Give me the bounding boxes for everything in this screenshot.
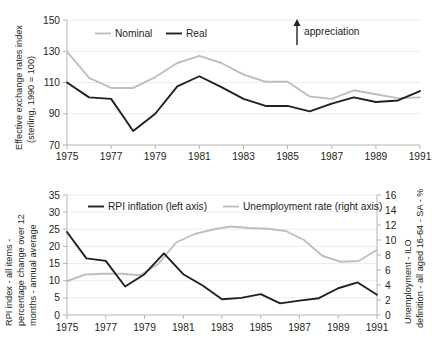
x-tick-1975: 1975 <box>56 322 79 333</box>
y-tick-150: 150 <box>43 15 60 26</box>
exchange-rates-y-axis: 150 130 110 90 70 <box>43 15 67 151</box>
inflation-y-axis-label: RPI index - all items - percentage chang… <box>4 214 38 326</box>
appreciation-annotation: appreciation <box>293 19 359 45</box>
exchange-rates-y-axis-label: Effective exchange rates index (sterling… <box>14 25 36 150</box>
y2-tick-2: 2 <box>385 295 391 306</box>
x-tick-1975: 1975 <box>56 151 79 162</box>
legend-label-unemployment: Unemployment rate (right axis) <box>243 201 382 212</box>
legend-label-real: Real <box>186 28 207 39</box>
y-tick-70: 70 <box>49 140 61 151</box>
y-axis-label-line3: months - annual average <box>28 224 38 326</box>
x-tick-1991: 1991 <box>409 151 432 162</box>
y-tick-10: 10 <box>49 275 61 286</box>
y-tick-30: 30 <box>49 207 61 218</box>
y2-tick-10: 10 <box>385 235 397 246</box>
y-tick-110: 110 <box>44 77 61 88</box>
y-axis-label-line1: RPI index - all items - <box>4 239 14 326</box>
y2-tick-0: 0 <box>385 310 391 321</box>
y-tick-5: 5 <box>54 292 60 303</box>
series-real-line <box>67 76 420 131</box>
inflation-unemployment-legend: RPI inflation (left axis) Unemployment r… <box>88 201 382 212</box>
x-tick-1979: 1979 <box>133 322 156 333</box>
y2-tick-6: 6 <box>385 265 391 276</box>
exchange-rates-chart-panel: Effective exchange rates index (sterling… <box>0 0 432 176</box>
y-tick-35: 35 <box>49 190 61 201</box>
x-tick-1977: 1977 <box>100 151 123 162</box>
y2-axis-label-line2: definition - all aged 16-64 - SA - % <box>415 189 425 328</box>
x-tick-1977: 1977 <box>94 322 117 333</box>
series-unemployment-line <box>67 227 377 282</box>
inflation-x-axis: 1975 1977 1979 1981 1983 1985 1987 1989 … <box>56 315 389 333</box>
y-tick-90: 90 <box>49 108 61 119</box>
y2-tick-14: 14 <box>385 205 397 216</box>
legend-label-rpi: RPI inflation (left axis) <box>108 201 207 212</box>
exchange-rates-x-axis: 1975 1977 1979 1981 1983 1985 1987 1989 … <box>56 145 432 162</box>
y2-axis-label-line1: Unemployment - ILO <box>403 239 413 324</box>
inflation-unemployment-chart: RPI index - all items - percentage chang… <box>0 176 432 352</box>
x-tick-1985: 1985 <box>276 151 299 162</box>
x-tick-1981: 1981 <box>172 322 195 333</box>
charts-page: Effective exchange rates index (sterling… <box>0 0 432 352</box>
y2-tick-4: 4 <box>385 280 391 291</box>
appreciation-label: appreciation <box>304 26 360 37</box>
inflation-y-axis: 35 30 25 20 15 10 5 0 <box>49 190 67 321</box>
y-tick-0: 0 <box>54 310 60 321</box>
y2-tick-8: 8 <box>385 250 391 261</box>
y-axis-label-line1: Effective exchange rates index <box>14 25 24 150</box>
exchange-rates-legend: Nominal Real <box>95 28 207 39</box>
x-tick-1989: 1989 <box>327 322 350 333</box>
x-tick-1991: 1991 <box>366 322 389 333</box>
x-tick-1981: 1981 <box>188 151 211 162</box>
y2-tick-12: 12 <box>385 220 397 231</box>
series-nominal-line <box>67 52 420 99</box>
unemployment-y-axis-label: Unemployment - ILO definition - all aged… <box>403 189 425 328</box>
inflation-unemployment-chart-panel: RPI index - all items - percentage chang… <box>0 176 432 352</box>
x-tick-1983: 1983 <box>232 151 255 162</box>
x-tick-1987: 1987 <box>288 322 311 333</box>
y-tick-20: 20 <box>49 241 61 252</box>
y-tick-130: 130 <box>43 46 60 57</box>
exchange-rates-chart: Effective exchange rates index (sterling… <box>0 0 432 176</box>
legend-label-nominal: Nominal <box>115 28 152 39</box>
x-tick-1989: 1989 <box>365 151 388 162</box>
y2-tick-16: 16 <box>385 190 397 201</box>
x-tick-1983: 1983 <box>211 322 234 333</box>
x-tick-1979: 1979 <box>144 151 167 162</box>
y-axis-label-line2: percentage change over 12 <box>16 214 26 326</box>
x-tick-1985: 1985 <box>249 322 272 333</box>
y-tick-15: 15 <box>49 258 61 269</box>
series-rpi-inflation-line <box>67 232 377 303</box>
x-tick-1987: 1987 <box>320 151 343 162</box>
y-axis-label-line2: (sterling, 1990 = 100) <box>26 56 36 143</box>
y-tick-25: 25 <box>49 224 61 235</box>
